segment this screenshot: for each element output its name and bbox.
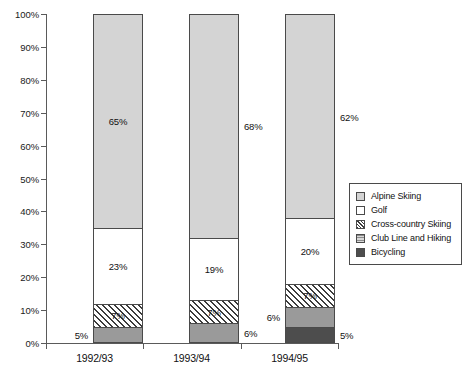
segment-value-label: 23% bbox=[109, 261, 127, 272]
bar-segment[interactable]: 5% bbox=[285, 327, 335, 343]
y-tick-mark bbox=[41, 80, 46, 81]
y-tick-label: 70% bbox=[20, 107, 39, 118]
y-tick-mark bbox=[41, 113, 46, 114]
legend-swatch-icon bbox=[356, 248, 365, 257]
y-tick-mark bbox=[41, 146, 46, 147]
y-tick-label: 60% bbox=[20, 140, 39, 151]
legend-swatch-icon bbox=[356, 206, 365, 215]
legend-label: Bicycling bbox=[371, 247, 405, 257]
segment-value-label: 7% bbox=[303, 290, 316, 301]
bar-segment[interactable]: 23% bbox=[93, 228, 143, 304]
segment-value-label: 5% bbox=[75, 329, 88, 340]
bar-segment[interactable]: 65% bbox=[93, 14, 143, 228]
y-tick-label: 100% bbox=[15, 9, 39, 20]
x-axis-separator bbox=[46, 343, 47, 349]
y-tick-label: 30% bbox=[20, 239, 39, 250]
y-tick-label: 80% bbox=[20, 74, 39, 85]
segment-value-label: 6% bbox=[244, 328, 257, 339]
bar-segment[interactable]: 6% bbox=[189, 323, 239, 343]
x-axis-separator bbox=[143, 343, 144, 349]
y-tick-label: 0% bbox=[25, 338, 39, 349]
chart-legend: Alpine SkiingGolfCross-country SkiingClu… bbox=[349, 183, 462, 265]
y-tick-label: 10% bbox=[20, 305, 39, 316]
legend-item[interactable]: Bicycling bbox=[356, 245, 455, 259]
bar-1992-93[interactable]: 65%23%7%5% bbox=[93, 14, 143, 343]
y-tick-mark bbox=[41, 310, 46, 311]
bar-1993-94[interactable]: 68%19%7%6% bbox=[189, 14, 239, 343]
legend-item[interactable]: Club Line and Hiking bbox=[356, 231, 455, 245]
segment-value-label: 62% bbox=[340, 111, 358, 122]
legend-swatch-icon bbox=[356, 192, 365, 201]
y-axis-line bbox=[46, 14, 47, 344]
y-tick-label: 90% bbox=[20, 41, 39, 52]
legend-item[interactable]: Golf bbox=[356, 203, 455, 217]
chart-title bbox=[100, 0, 360, 1]
bar-segment[interactable]: 19% bbox=[189, 238, 239, 301]
plot-area: 0%10%20%30%40%50%60%70%80%90%100% 65%23%… bbox=[46, 14, 338, 344]
y-tick-mark bbox=[41, 47, 46, 48]
legend-label: Alpine Skiing bbox=[371, 191, 421, 201]
x-axis-separator bbox=[241, 343, 242, 349]
y-tick-label: 20% bbox=[20, 272, 39, 283]
legend-label: Golf bbox=[371, 205, 387, 215]
bar-segment[interactable]: 20% bbox=[285, 218, 335, 284]
bar-segment[interactable]: 7% bbox=[189, 300, 239, 323]
segment-value-label: 68% bbox=[244, 121, 262, 132]
y-tick-label: 50% bbox=[20, 173, 39, 184]
legend-item[interactable]: Alpine Skiing bbox=[356, 189, 455, 203]
x-axis-separator bbox=[338, 343, 339, 349]
y-tick-mark bbox=[41, 179, 46, 180]
y-tick-label: 40% bbox=[20, 206, 39, 217]
x-axis-line bbox=[46, 343, 338, 344]
bar-segment[interactable]: 7% bbox=[93, 304, 143, 327]
legend-label: Club Line and Hiking bbox=[371, 233, 451, 243]
segment-value-label: 19% bbox=[205, 264, 223, 275]
stacked-bar-chart: 0%10%20%30%40%50%60%70%80%90%100% 65%23%… bbox=[0, 0, 466, 379]
bar-segment[interactable]: 7% bbox=[285, 284, 335, 307]
y-tick-mark bbox=[41, 277, 46, 278]
x-axis-label-1993-94: 1993/94 bbox=[143, 352, 240, 364]
legend-swatch-icon bbox=[356, 234, 365, 243]
legend-swatch-icon bbox=[356, 220, 365, 229]
y-tick-mark bbox=[41, 211, 46, 212]
segment-value-label: 7% bbox=[111, 310, 124, 321]
legend-label: Cross-country Skiing bbox=[371, 219, 451, 229]
bar-segment[interactable]: 5% bbox=[93, 327, 143, 343]
segment-value-label: 5% bbox=[340, 329, 353, 340]
x-axis-label-1994-95: 1994/95 bbox=[241, 352, 338, 364]
y-tick-mark bbox=[41, 244, 46, 245]
y-tick-mark bbox=[41, 14, 46, 15]
x-axis-label-1992-93: 1992/93 bbox=[46, 352, 143, 364]
bar-segment[interactable]: 6% bbox=[285, 307, 335, 327]
bar-segment[interactable]: 62% bbox=[285, 14, 335, 218]
segment-value-label: 7% bbox=[207, 307, 220, 318]
bar-segment[interactable]: 68% bbox=[189, 14, 239, 238]
segment-value-label: 65% bbox=[109, 116, 127, 127]
segment-value-label: 20% bbox=[301, 246, 319, 257]
legend-item[interactable]: Cross-country Skiing bbox=[356, 217, 455, 231]
segment-value-label: 6% bbox=[267, 312, 280, 323]
bar-1994-95[interactable]: 62%20%7%6%5% bbox=[285, 14, 335, 343]
